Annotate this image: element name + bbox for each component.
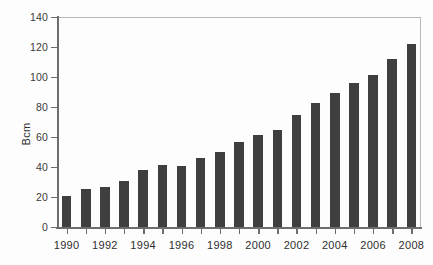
bar-chart: 020406080100120140 199019921994199619982… (0, 0, 433, 265)
x-tick-label: 1992 (92, 239, 118, 251)
x-tick-label: 1994 (130, 239, 156, 251)
y-tick (51, 197, 57, 198)
x-tick (67, 228, 68, 234)
bar (330, 93, 340, 227)
y-tick (51, 107, 57, 108)
x-tick (373, 228, 374, 234)
x-tick (392, 228, 393, 234)
x-tick-label: 1998 (207, 239, 233, 251)
x-tick (335, 228, 336, 234)
bar (387, 59, 397, 227)
y-tick (51, 137, 57, 138)
y-tick (51, 227, 57, 228)
x-tick (220, 228, 221, 234)
x-tick (296, 228, 297, 234)
y-tick-label: 100 (8, 71, 48, 83)
bar (62, 196, 72, 227)
bar (311, 103, 321, 227)
bar (234, 142, 244, 227)
y-tick-label: 20 (8, 191, 48, 203)
bar (196, 158, 206, 227)
y-tick (51, 77, 57, 78)
bar (119, 181, 129, 227)
x-tick (258, 228, 259, 234)
y-tick (51, 17, 57, 18)
x-tick (277, 228, 278, 234)
bar (215, 152, 225, 227)
x-tick (105, 228, 106, 234)
x-tick (201, 228, 202, 234)
bar (349, 83, 359, 227)
y-tick-label: 120 (8, 41, 48, 53)
y-axis-title: Bcm (20, 104, 32, 164)
bar (407, 44, 417, 227)
x-tick (143, 228, 144, 234)
x-tick (354, 228, 355, 234)
y-tick-label: 140 (8, 11, 48, 23)
bar (292, 115, 302, 227)
y-tick (51, 167, 57, 168)
x-tick (182, 228, 183, 234)
y-tick (51, 47, 57, 48)
bar (138, 170, 148, 227)
x-tick (239, 228, 240, 234)
bar (100, 187, 110, 227)
x-tick (411, 228, 412, 234)
bar (273, 130, 283, 228)
x-tick-label: 2004 (322, 239, 348, 251)
bar (177, 166, 187, 228)
x-tick (124, 228, 125, 234)
x-tick-label: 2006 (360, 239, 386, 251)
x-tick-label: 2000 (245, 239, 271, 251)
x-tick (86, 228, 87, 234)
y-axis-line (57, 16, 59, 228)
bar (253, 135, 263, 227)
y-tick-label: 0 (8, 221, 48, 233)
x-tick-label: 2002 (284, 239, 310, 251)
x-tick (316, 228, 317, 234)
x-tick-label: 1996 (169, 239, 195, 251)
x-tick-label: 2008 (399, 239, 425, 251)
bar (158, 165, 168, 227)
bar (368, 75, 378, 227)
x-tick-label: 1990 (54, 239, 80, 251)
bar (81, 189, 91, 227)
x-tick (162, 228, 163, 234)
